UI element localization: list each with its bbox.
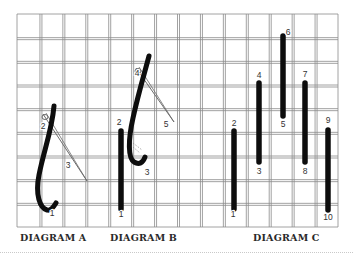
- caption-diagram-b: DIAGRAM B: [110, 232, 177, 243]
- guide-dashes-b: [133, 143, 142, 153]
- point-label: 1: [119, 209, 124, 219]
- dotted-divider: [0, 252, 353, 253]
- point-label: 3: [66, 160, 71, 170]
- point-label: 3: [145, 167, 150, 177]
- caption-diagram-a: DIAGRAM A: [20, 232, 86, 243]
- point-label: 7: [303, 69, 308, 79]
- point-label: 5: [281, 119, 286, 129]
- point-label: 10: [323, 212, 333, 222]
- point-label: 5: [164, 119, 169, 129]
- stitch-diagram-figure: 2314523121436578910: [0, 0, 353, 256]
- point-label: 2: [117, 117, 122, 127]
- point-label: 1: [50, 208, 55, 218]
- point-label: 2: [41, 121, 46, 131]
- point-label: 9: [326, 115, 331, 125]
- point-label: 1: [231, 209, 236, 219]
- point-label: 2: [232, 118, 237, 128]
- point-label: 4: [135, 68, 140, 78]
- point-labels: 2314523121436578910: [41, 27, 333, 222]
- point-label: 8: [303, 166, 308, 176]
- canvas-grid: [17, 14, 338, 227]
- caption-diagram-c: DIAGRAM C: [253, 232, 320, 243]
- point-label: 3: [257, 166, 262, 176]
- point-label: 6: [286, 27, 291, 37]
- point-label: 4: [257, 70, 262, 80]
